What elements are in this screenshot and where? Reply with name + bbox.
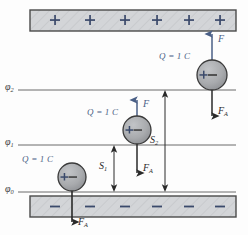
positive-plate-body — [30, 10, 236, 31]
distance-label-s1: S1 — [99, 161, 107, 171]
force-label-fa-middle: FA — [143, 163, 153, 173]
charge-top — [197, 34, 227, 116]
negative-plate-body — [30, 196, 236, 217]
equipotential-label-phi0: φ0 — [5, 184, 14, 194]
minus-sign-icon — [120, 206, 130, 208]
positive-plate — [30, 10, 236, 31]
figure-canvas: φ2 φ1 φ0 Q = 1 C Q = 1 C Q = 1 C F F FA … — [0, 0, 248, 235]
force-label-fa-top: FA — [218, 106, 228, 116]
equipotential-label-phi2: φ2 — [5, 82, 14, 92]
charge-label-bottom: Q = 1 C — [22, 155, 53, 164]
minus-sign-icon — [50, 206, 60, 208]
equipotential-label-phi1: φ1 — [5, 137, 14, 147]
minus-sign-icon — [85, 206, 95, 208]
distance-marker-s1 — [111, 145, 117, 192]
distance-label-s2: S2 — [150, 135, 158, 145]
force-label-f-middle: F — [143, 99, 149, 109]
minus-sign-icon — [184, 206, 194, 208]
force-label-fa-bottom: FA — [78, 217, 88, 227]
charge-label-middle: Q = 1 C — [87, 108, 118, 117]
diagram-svg — [0, 0, 248, 235]
charge-label-top: Q = 1 C — [159, 52, 190, 61]
distance-marker-s2 — [162, 90, 168, 192]
force-label-f-top: F — [218, 34, 224, 44]
minus-sign-icon — [152, 206, 162, 208]
minus-sign-icon — [215, 206, 225, 208]
negative-plate — [30, 196, 236, 217]
